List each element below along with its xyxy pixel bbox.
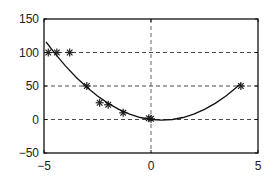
chart: −50050100150 −505 [0,0,273,183]
data-point-asterisk [66,49,74,57]
y-tick-label: 150 [19,12,39,26]
y-tick-label: 50 [26,79,40,93]
fit-curve [46,42,241,120]
x-tick-label: 5 [255,159,262,173]
grid-lines [44,19,258,153]
y-tick-label: 100 [19,46,39,60]
y-tick-label: −50 [19,146,40,160]
x-tick-label: −5 [37,159,51,173]
x-axis-ticks: −505 [37,19,262,173]
x-tick-label: 0 [148,159,155,173]
plot-series [44,42,245,123]
y-tick-label: 0 [32,113,39,127]
